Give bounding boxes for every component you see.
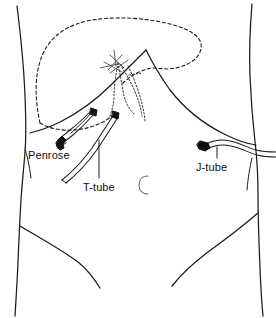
torso-left-edge <box>15 6 26 316</box>
jtube-label: J-tube <box>196 161 227 173</box>
jtube-exit-hub <box>197 141 210 151</box>
umbilicus <box>139 176 148 194</box>
ttube-distal-end <box>62 180 66 183</box>
umbilicus-c-mark <box>139 176 148 194</box>
costal-margin-right <box>146 50 256 145</box>
abdominal-drain-diagram: Penrose T-tube J-tube <box>0 0 276 318</box>
ttube-exit-hub <box>112 111 119 119</box>
ttube-label: T-tube <box>83 181 115 193</box>
right-inguinal-line <box>172 213 258 286</box>
leader-lines <box>57 140 217 178</box>
ttube-outer-wall <box>62 114 114 180</box>
penrose-proximal-end <box>90 108 97 116</box>
t-tube <box>62 111 119 183</box>
right-flank-notch <box>247 158 252 190</box>
penrose-crease <box>71 112 92 133</box>
penrose-label: Penrose <box>28 149 70 161</box>
incision-suture-marks <box>100 50 128 73</box>
left-inguinal-line <box>20 226 100 288</box>
j-tube <box>197 140 276 157</box>
penrose-upper-wall <box>58 110 92 140</box>
costal-margin <box>30 50 256 145</box>
cystic-duct <box>110 63 118 116</box>
penrose-drain <box>56 108 97 150</box>
